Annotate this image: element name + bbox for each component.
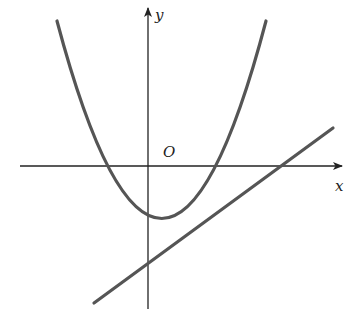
x-axis-label: x bbox=[335, 177, 344, 195]
coordinate-diagram: y x O bbox=[0, 0, 348, 309]
parabola-curve bbox=[57, 21, 266, 219]
straight-line bbox=[94, 128, 333, 303]
y-axis-label: y bbox=[154, 6, 164, 24]
origin-label: O bbox=[163, 143, 175, 161]
